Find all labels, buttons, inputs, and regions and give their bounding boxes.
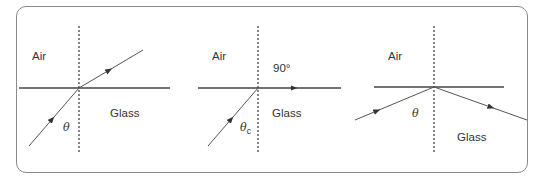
panel-total-internal-reflection: Air θ Glass xyxy=(355,26,527,152)
label-critical-angle: θc xyxy=(240,121,252,136)
label-angle-theta: θ xyxy=(412,107,419,120)
incident-ray xyxy=(355,87,434,120)
refracted-ray xyxy=(79,50,143,88)
label-air: Air xyxy=(32,50,46,62)
ray-diagram: Air Glass θ Air 90° Glass θc Air θ Glass xyxy=(0,0,544,182)
label-angle-theta: θ xyxy=(63,121,70,134)
incident-ray xyxy=(208,88,258,146)
reflected-ray xyxy=(434,87,527,120)
label-glass: Glass xyxy=(110,107,140,119)
label-glass: Glass xyxy=(272,107,302,119)
label-glass: Glass xyxy=(457,131,487,143)
panel-refraction: Air Glass θ xyxy=(19,26,170,152)
label-90-degrees: 90° xyxy=(273,62,290,74)
label-air: Air xyxy=(212,50,226,62)
label-air: Air xyxy=(388,50,402,62)
panel-critical-angle: Air 90° Glass θc xyxy=(198,26,341,152)
incident-ray xyxy=(29,88,79,146)
